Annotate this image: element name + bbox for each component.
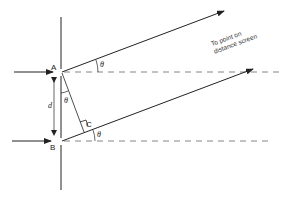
label-c: C (86, 120, 92, 129)
ray-from-b (62, 69, 253, 141)
label-a: A (51, 63, 57, 72)
label-b: B (50, 143, 55, 152)
label-theta-b: θ (97, 130, 101, 139)
annotation: To point on distance screen (210, 25, 258, 55)
angle-arc-a (96, 60, 98, 72)
angle-arc-b (93, 130, 95, 141)
double-slit-diagram: A B C d θ θ θ To point on distance scree… (0, 0, 290, 201)
label-theta-ac: θ (64, 96, 68, 105)
ray-from-a (62, 11, 224, 72)
angle-arc-ac (61, 91, 68, 93)
label-theta-a: θ (100, 60, 104, 69)
label-d: d (48, 101, 53, 110)
